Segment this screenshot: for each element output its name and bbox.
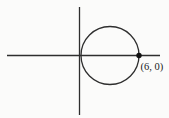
point-label: (6, 0) [141, 61, 164, 73]
point-marker [136, 53, 141, 58]
figure-canvas: (6, 0) [0, 0, 169, 118]
coordinate-plane: (6, 0) [0, 0, 169, 118]
